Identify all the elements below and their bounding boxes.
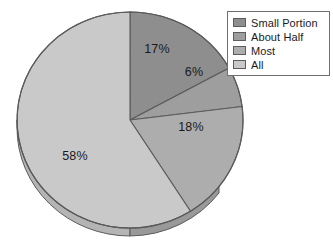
slice-label-17: 17% [144, 42, 170, 56]
legend-swatch-all [233, 60, 246, 69]
legend-item-small-portion[interactable]: Small Portion [233, 16, 324, 29]
chart-canvas: 17% 6% 18% 58% Small Portion About Half … [0, 0, 333, 250]
pie-slices [17, 12, 243, 228]
chart-legend: Small Portion About Half Most All [227, 11, 330, 76]
legend-label-most: Most [251, 45, 275, 57]
legend-item-all[interactable]: All [233, 58, 324, 71]
legend-swatch-most [233, 46, 246, 55]
legend-label-small-portion: Small Portion [251, 17, 318, 29]
legend-label-about-half: About Half [251, 31, 303, 43]
legend-swatch-small-portion [233, 18, 246, 27]
slice-label-58: 58% [62, 149, 88, 163]
slice-label-6: 6% [185, 65, 203, 79]
slice-label-18: 18% [178, 120, 204, 134]
legend-item-about-half[interactable]: About Half [233, 30, 324, 43]
legend-swatch-about-half [233, 32, 246, 41]
legend-item-most[interactable]: Most [233, 44, 324, 57]
legend-label-all: All [251, 59, 264, 71]
